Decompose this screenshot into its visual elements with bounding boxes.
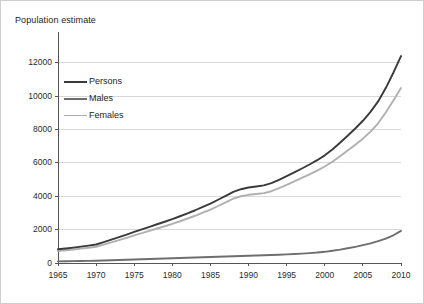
x-tick-label: 2005 [345,270,381,280]
x-tick-label: 2000 [307,270,343,280]
legend-label-persons: Persons [89,77,122,86]
y-tick-label: 12000 [10,57,52,67]
y-tick-label: 8000 [10,124,52,134]
x-tick-label: 1970 [78,270,114,280]
legend-swatch-females [64,115,87,116]
x-tick-label: 1975 [116,270,152,280]
legend-item-females[interactable]: Females [64,107,124,124]
chart-figure: Population estimate 02000400060008000100… [0,0,424,304]
x-tick-label: 1990 [231,270,267,280]
y-tick-label: 10000 [10,91,52,101]
legend-swatch-persons [64,81,87,83]
y-tick-label: 4000 [10,191,52,201]
x-tick-label: 1965 [40,270,76,280]
legend-label-males: Males [89,94,113,103]
legend-swatch-males [64,98,87,100]
y-tick-label: 0 [10,258,52,268]
axis-lines [58,32,401,263]
plot-area [1,1,424,304]
x-tick-label: 1980 [154,270,190,280]
legend-label-females: Females [89,111,124,120]
y-tick-label: 2000 [10,224,52,234]
legend-item-males[interactable]: Males [64,90,124,107]
legend-item-persons[interactable]: Persons [64,73,124,90]
x-tick-label: 1985 [192,270,228,280]
y-tick-label: 6000 [10,157,52,167]
x-tick-label: 2010 [383,270,419,280]
chart-legend: Persons Males Females [64,73,124,124]
x-tick-label: 1995 [269,270,305,280]
